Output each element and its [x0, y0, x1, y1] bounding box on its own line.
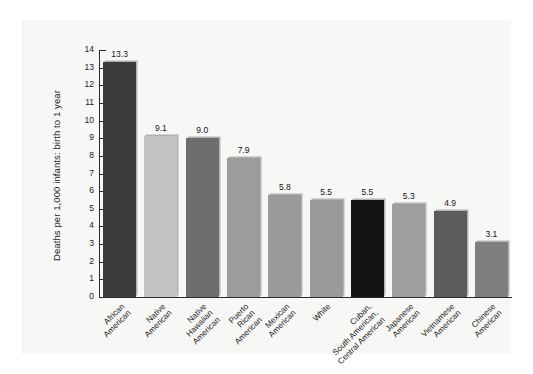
plot-area: 14131211109876543210 13.3AfricanAmerican… [99, 50, 512, 297]
bar[interactable] [475, 242, 508, 297]
chart-panel: Deaths per 1,000 infants: birth to 1 yea… [22, 20, 511, 354]
y-tick-label: 5 [89, 203, 94, 213]
bar[interactable] [227, 158, 260, 297]
bar-group[interactable]: 5.8MexicanAmerican [268, 50, 301, 297]
x-tick-label: VietnameseAmerican [420, 302, 464, 346]
bar-value-label: 3.1 [485, 229, 497, 239]
y-tick-0: 0 [99, 297, 106, 298]
bar-value-label: 5.8 [279, 182, 291, 192]
y-tick-label: 14 [85, 44, 94, 54]
x-tick-label: ChineseAmerican [467, 302, 505, 340]
bar-group[interactable]: 9.1NativeAmerican [144, 50, 177, 297]
bar-group[interactable]: 5.3JapaneseAmerican [392, 50, 425, 297]
bar-group[interactable]: 9.0NativeHawaiianAmerican [186, 50, 219, 297]
y-tick-label: 2 [89, 256, 94, 266]
x-tick-label: White [311, 302, 332, 323]
bar[interactable] [144, 136, 177, 297]
x-tick-label: NativeAmerican [136, 302, 174, 340]
bar[interactable] [392, 204, 425, 298]
bar[interactable] [268, 195, 301, 297]
y-tick-label: 4 [89, 220, 94, 230]
bar-group[interactable]: 5.5Cuban,South American,Central American [351, 50, 384, 297]
bar-value-label: 13.3 [111, 49, 128, 59]
x-tick-label: JapaneseAmerican [384, 302, 422, 340]
bar-group[interactable]: 5.5White [310, 50, 343, 297]
y-tick-mark [99, 297, 106, 298]
bar-value-label: 4.9 [444, 198, 456, 208]
bar-group[interactable]: 3.1ChineseAmerican [475, 50, 508, 297]
bar-value-label: 7.9 [238, 145, 250, 155]
y-tick-label: 11 [85, 97, 94, 107]
y-tick-label: 1 [89, 273, 94, 283]
bar[interactable] [351, 200, 384, 297]
y-tick-label: 6 [89, 185, 94, 195]
bar[interactable] [310, 200, 343, 297]
bar-value-label: 5.5 [320, 187, 332, 197]
bar-value-label: 9.0 [196, 125, 208, 135]
bar[interactable] [186, 138, 219, 297]
bar-value-label: 5.5 [362, 187, 374, 197]
bar-value-label: 5.3 [403, 191, 415, 201]
bar-series: 13.3AfricanAmerican9.1NativeAmerican9.0N… [99, 50, 512, 297]
bar[interactable] [434, 211, 467, 297]
x-axis-line [99, 297, 512, 298]
x-tick-label: NativeHawaiianAmerican [178, 302, 222, 346]
y-tick-label: 7 [89, 168, 94, 178]
bar-value-label: 9.1 [155, 123, 167, 133]
y-tick-label: 0 [89, 291, 94, 301]
y-tick-label: 10 [85, 115, 94, 125]
y-tick-label: 9 [89, 132, 94, 142]
y-axis-label: Deaths per 1,000 infants: birth to 1 yea… [51, 76, 62, 276]
bar[interactable] [103, 62, 136, 297]
y-tick-label: 3 [89, 238, 94, 248]
x-tick-label: MexicanAmerican [260, 302, 298, 340]
bar-group[interactable]: 13.3AfricanAmerican [103, 50, 136, 297]
bar-group[interactable]: 7.9PuertoRicanAmerican [227, 50, 260, 297]
y-tick-label: 8 [89, 150, 94, 160]
bar-group[interactable]: 4.9VietnameseAmerican [434, 50, 467, 297]
x-tick-label: Cuban,South American,Central American [323, 302, 387, 366]
infant-mortality-bar-chart: Deaths per 1,000 infants: birth to 1 yea… [0, 0, 533, 374]
y-tick-label: 12 [85, 79, 94, 89]
x-tick-label: AfricanAmerican [95, 302, 133, 340]
x-tick-label: PuertoRicanAmerican [219, 302, 263, 346]
y-tick-label: 13 [85, 62, 94, 72]
